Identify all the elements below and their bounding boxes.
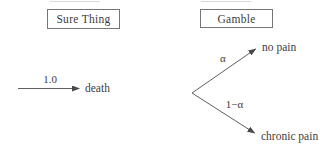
gamble-branch1-probability-label: α xyxy=(211,52,235,64)
sure-thing-probability-label: 1.0 xyxy=(38,73,62,85)
gamble-branch2-outcome-label: chronic pain xyxy=(261,130,318,142)
gamble-branch1-outcome-label: no pain xyxy=(262,41,296,53)
decision-tree-diagram: Sure Thing Gamble 1.0 death α no pain 1−… xyxy=(0,0,326,153)
sure-thing-outcome-label: death xyxy=(85,82,110,94)
gamble-branch2-probability-label: 1−α xyxy=(216,98,253,110)
